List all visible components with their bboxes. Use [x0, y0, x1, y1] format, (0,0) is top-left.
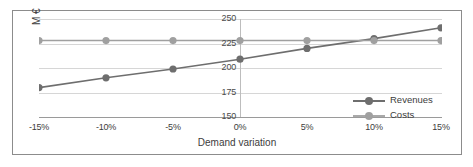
data-point-revenues--10% — [102, 74, 109, 81]
legend-label-revenues: Revenues — [390, 93, 433, 107]
x-axis-tick-15%: 15% — [421, 123, 461, 132]
data-point-costs-10% — [370, 37, 377, 44]
data-point-costs--10% — [102, 37, 109, 44]
data-point-revenues--15% — [39, 84, 43, 91]
x-axis-tick-10%: 10% — [354, 123, 394, 132]
legend-item-revenues[interactable]: Revenues — [353, 93, 458, 108]
legend-item-costs[interactable]: Costs — [353, 108, 458, 123]
data-point-revenues-5% — [303, 45, 310, 52]
data-point-costs-15% — [437, 37, 442, 44]
legend-label-costs: Costs — [390, 108, 414, 122]
data-point-costs--5% — [169, 37, 176, 44]
data-point-costs-0% — [236, 37, 243, 44]
y-axis-tick-250: 250 — [210, 14, 236, 23]
legend-swatch-costs — [353, 115, 385, 117]
x-axis-tick--5%: -5% — [153, 123, 193, 132]
x-axis-title: Demand variation — [13, 137, 461, 148]
y-axis-tick-150: 150 — [210, 112, 236, 121]
chart-legend: Revenues Costs — [353, 93, 458, 123]
data-point-costs--15% — [39, 37, 43, 44]
data-point-revenues--5% — [169, 65, 176, 72]
x-axis-tick-0%: 0% — [220, 123, 260, 132]
x-axis-tick--15%: -15% — [19, 123, 59, 132]
data-point-revenues-15% — [437, 24, 442, 31]
x-axis-tick-5%: 5% — [287, 123, 327, 132]
x-axis-tick--10%: -10% — [86, 123, 126, 132]
y-axis-tick-200: 200 — [210, 63, 236, 72]
chart-figure: M € 150175200225250 -15%-10%-5%0%5%10%15… — [12, 10, 462, 155]
legend-swatch-revenues — [353, 100, 385, 102]
data-point-costs-5% — [303, 37, 310, 44]
legend-marker-costs — [365, 112, 373, 120]
y-axis-tick-175: 175 — [210, 88, 236, 97]
legend-marker-revenues — [365, 97, 373, 105]
y-axis-title-container: M € — [25, 19, 39, 59]
data-point-revenues-0% — [236, 56, 243, 63]
y-axis-tick-225: 225 — [210, 39, 236, 48]
